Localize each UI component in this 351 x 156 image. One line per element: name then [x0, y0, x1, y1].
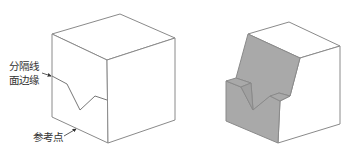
left-cube: [52, 14, 175, 143]
reference-point-leader-arrow: [64, 129, 76, 136]
label-split-line: 分隔线: [9, 60, 39, 73]
label-face-edge: 面边缘: [9, 74, 39, 87]
label-reference-point: 参考点: [33, 131, 63, 144]
right-cube: [226, 22, 340, 143]
split-line-leader-arrow: [42, 73, 51, 76]
